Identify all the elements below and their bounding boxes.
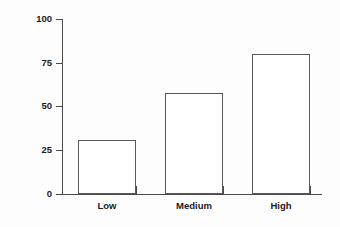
y-axis-line: [62, 19, 63, 195]
x-category-label-low: Low: [78, 201, 136, 211]
bar-chart: Percent of Patients 100 75 50 25 0 Low M…: [0, 0, 340, 227]
y-tick-label-0: 0: [12, 189, 52, 199]
x-tick-mark-4: [223, 186, 224, 194]
x-category-label-high: High: [252, 201, 310, 211]
x-tick-mark-2: [136, 186, 137, 194]
y-tick-label-50: 50: [12, 101, 52, 111]
y-tick-mark-75: [56, 63, 62, 64]
bar-high[interactable]: [252, 54, 310, 194]
x-tick-mark-6: [310, 186, 311, 194]
y-tick-mark-100: [56, 19, 62, 20]
y-tick-mark-25: [56, 150, 62, 151]
x-category-label-medium: Medium: [165, 201, 223, 211]
y-tick-mark-50: [56, 106, 62, 107]
y-tick-label-25: 25: [12, 145, 52, 155]
bar-low[interactable]: [78, 140, 136, 194]
y-tick-mark-0: [56, 194, 62, 195]
y-tick-label-75: 75: [12, 58, 52, 68]
bar-medium[interactable]: [165, 93, 223, 195]
x-axis-line: [62, 194, 322, 195]
y-tick-label-100: 100: [12, 14, 52, 24]
